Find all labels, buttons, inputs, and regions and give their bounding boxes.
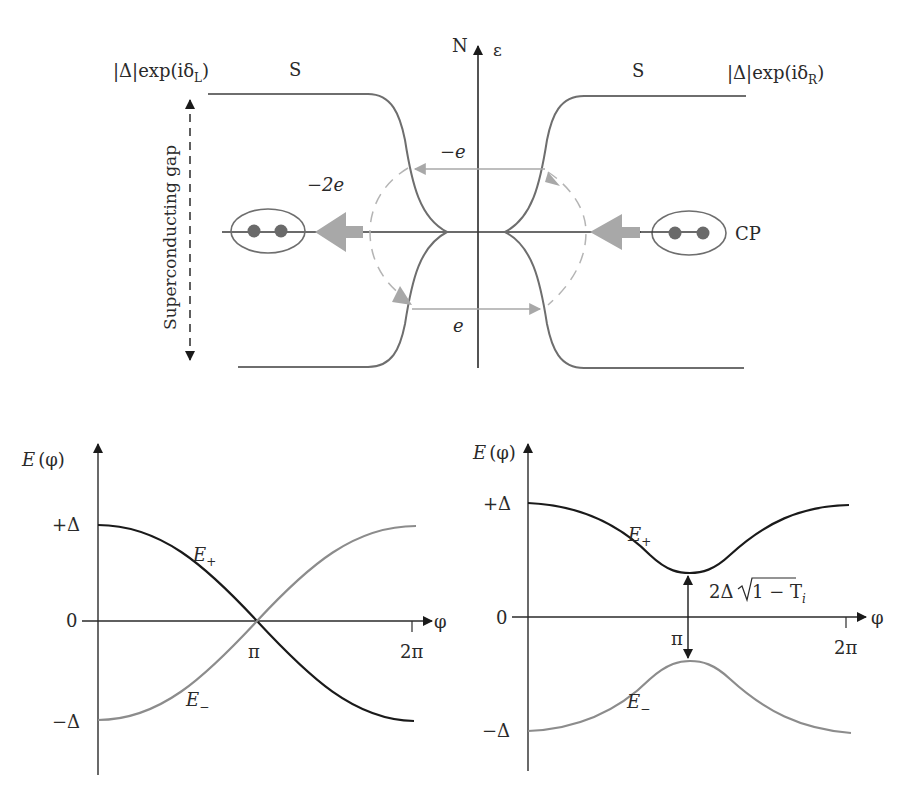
cooper-pair-right xyxy=(640,211,726,255)
series-e-minus xyxy=(98,526,416,720)
electron-charge-label: e xyxy=(453,315,464,336)
series-e-minus xyxy=(528,661,851,733)
hole-charge-label: −e xyxy=(440,141,466,162)
x-axis-label: φ xyxy=(871,607,884,628)
energy-axis-label: ε xyxy=(493,40,502,60)
left-superconductor-label: S xyxy=(289,59,301,80)
andreev-arrowhead-upper-right xyxy=(545,172,560,186)
x-axis-label: φ xyxy=(434,611,447,632)
right-superconductor-label: S xyxy=(632,60,644,81)
right-gap-edge-upper xyxy=(505,96,746,232)
y-tick-plus-delta: +Δ xyxy=(483,493,511,514)
y-tick-minus-delta: −Δ xyxy=(482,720,510,741)
sns-junction-diagram: N ε |Δ|exp(iδL) S S |Δ|exp(iδR) Supercon… xyxy=(113,35,824,368)
normal-region-label: N xyxy=(452,35,468,56)
series-e-plus-label: E+ xyxy=(192,544,216,569)
abs-spectrum-perfect-transmission: E(φ) +Δ 0 −Δ π 2π φ E+ E− xyxy=(21,444,447,775)
y-axis-label: E(φ) xyxy=(21,449,65,470)
series-e-plus xyxy=(528,503,849,573)
andreev-cycle-right xyxy=(548,172,586,305)
series-e-minus-label: E− xyxy=(626,691,650,716)
y-tick-plus-delta: +Δ xyxy=(52,514,80,535)
svg-text:1 − Ti: 1 − Ti xyxy=(752,581,806,606)
gap-formula: 2Δ 1 − Ti xyxy=(709,578,806,606)
x-tick-pi: π xyxy=(671,628,683,649)
series-e-minus-label: E− xyxy=(185,689,209,714)
x-tick-2pi-label: 2π xyxy=(834,637,857,658)
x-tick-pi: π xyxy=(248,641,260,662)
cooper-pair-left xyxy=(231,209,305,253)
left-gap-edge-upper xyxy=(208,94,447,232)
cooper-pair-transfer-arrow-left xyxy=(315,212,363,252)
figure-canvas: N ε |Δ|exp(iδL) S S |Δ|exp(iδR) Supercon… xyxy=(0,0,917,800)
y-tick-zero: 0 xyxy=(66,610,77,631)
x-tick-2pi-label: 2π xyxy=(400,641,423,662)
svg-text:2Δ: 2Δ xyxy=(709,581,733,602)
left-order-parameter: |Δ|exp(iδL) xyxy=(113,60,209,85)
y-axis-label: E(φ) xyxy=(472,442,516,463)
gap-dimension-label: Superconducting gap xyxy=(160,145,180,330)
andreev-cycle-left xyxy=(370,168,408,300)
right-order-parameter: |Δ|exp(iδR) xyxy=(727,62,824,87)
y-tick-minus-delta: −Δ xyxy=(52,711,80,732)
y-tick-zero: 0 xyxy=(496,607,507,628)
abs-spectrum-finite-transmission: E(φ) +Δ 0 −Δ π 2π φ E+ E− 2Δ 1 − Ti xyxy=(472,442,884,771)
cooper-pair-transfer-arrow-right xyxy=(590,214,640,250)
cooper-pair-label: CP xyxy=(735,223,761,244)
pair-charge-label: −2e xyxy=(307,174,344,195)
